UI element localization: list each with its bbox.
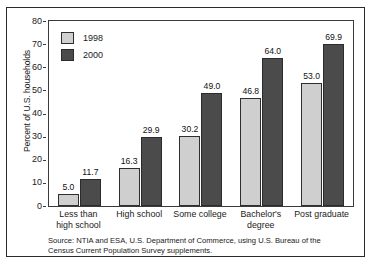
bar-value-label: 16.3 xyxy=(115,157,144,166)
bar-value-label: 53.0 xyxy=(297,72,326,81)
y-tick-label: 60 xyxy=(32,63,42,72)
y-tick-mark xyxy=(43,160,46,161)
bar-value-label: 69.9 xyxy=(319,33,348,42)
bar-group: 53.069.9 xyxy=(292,21,353,206)
bar-value-label: 11.7 xyxy=(76,168,105,177)
y-tick-label: 70 xyxy=(32,40,42,49)
x-axis-label: Some college xyxy=(170,209,231,220)
bar-value-label: 64.0 xyxy=(258,47,287,56)
bar-2000[interactable] xyxy=(80,179,101,206)
bar-group: 30.249.0 xyxy=(171,21,232,206)
x-axis-label: Less thanhigh school xyxy=(48,209,109,230)
y-tick-mark xyxy=(43,183,46,184)
bar-value-label: 30.2 xyxy=(175,125,204,134)
plot-area: 1998 2000 5.011.716.329.930.249.046.864.… xyxy=(48,20,354,207)
y-axis-tick-labels: 01020304050607080 xyxy=(7,20,46,207)
bar-1998[interactable] xyxy=(240,98,261,206)
bar-value-label: 49.0 xyxy=(197,82,226,91)
x-axis-category-labels: Less thanhigh schoolHigh schoolSome coll… xyxy=(48,209,354,235)
bar-2000[interactable] xyxy=(323,44,344,206)
y-tick-label: 40 xyxy=(32,109,42,118)
y-tick-label: 0 xyxy=(37,202,42,211)
bar-group: 5.011.7 xyxy=(49,21,110,206)
bar-2000[interactable] xyxy=(141,137,162,206)
chart-figure: Percent of U.S. households 0102030405060… xyxy=(6,7,365,257)
y-tick-mark xyxy=(43,137,46,138)
bar-group: 46.864.0 xyxy=(231,21,292,206)
bar-2000[interactable] xyxy=(201,93,222,206)
bars-layer: 5.011.716.329.930.249.046.864.053.069.9 xyxy=(49,21,353,206)
x-axis-label: Bachelor'sdegree xyxy=(230,209,291,230)
x-axis-label: Post graduate xyxy=(291,209,352,220)
y-tick-mark xyxy=(43,44,46,45)
source-note: Source: NTIA and ESA, U.S. Department of… xyxy=(48,236,348,256)
bar-value-label: 46.8 xyxy=(236,87,265,96)
bar-1998[interactable] xyxy=(119,168,140,206)
y-tick-label: 10 xyxy=(32,178,42,187)
y-tick-mark xyxy=(43,67,46,68)
y-tick-label: 50 xyxy=(32,86,42,95)
x-axis-label: High school xyxy=(109,209,170,220)
bar-value-label: 5.0 xyxy=(54,183,83,192)
y-tick-label: 80 xyxy=(32,17,42,26)
y-tick-label: 30 xyxy=(32,132,42,141)
bar-2000[interactable] xyxy=(262,58,283,206)
bar-1998[interactable] xyxy=(179,136,200,206)
bar-1998[interactable] xyxy=(301,83,322,206)
y-tick-mark xyxy=(43,90,46,91)
y-tick-mark xyxy=(43,114,46,115)
bar-1998[interactable] xyxy=(58,194,79,206)
y-tick-mark xyxy=(43,21,46,22)
y-tick-mark xyxy=(43,206,46,207)
bar-group: 16.329.9 xyxy=(110,21,171,206)
bar-value-label: 29.9 xyxy=(137,126,166,135)
y-tick-label: 20 xyxy=(32,155,42,164)
